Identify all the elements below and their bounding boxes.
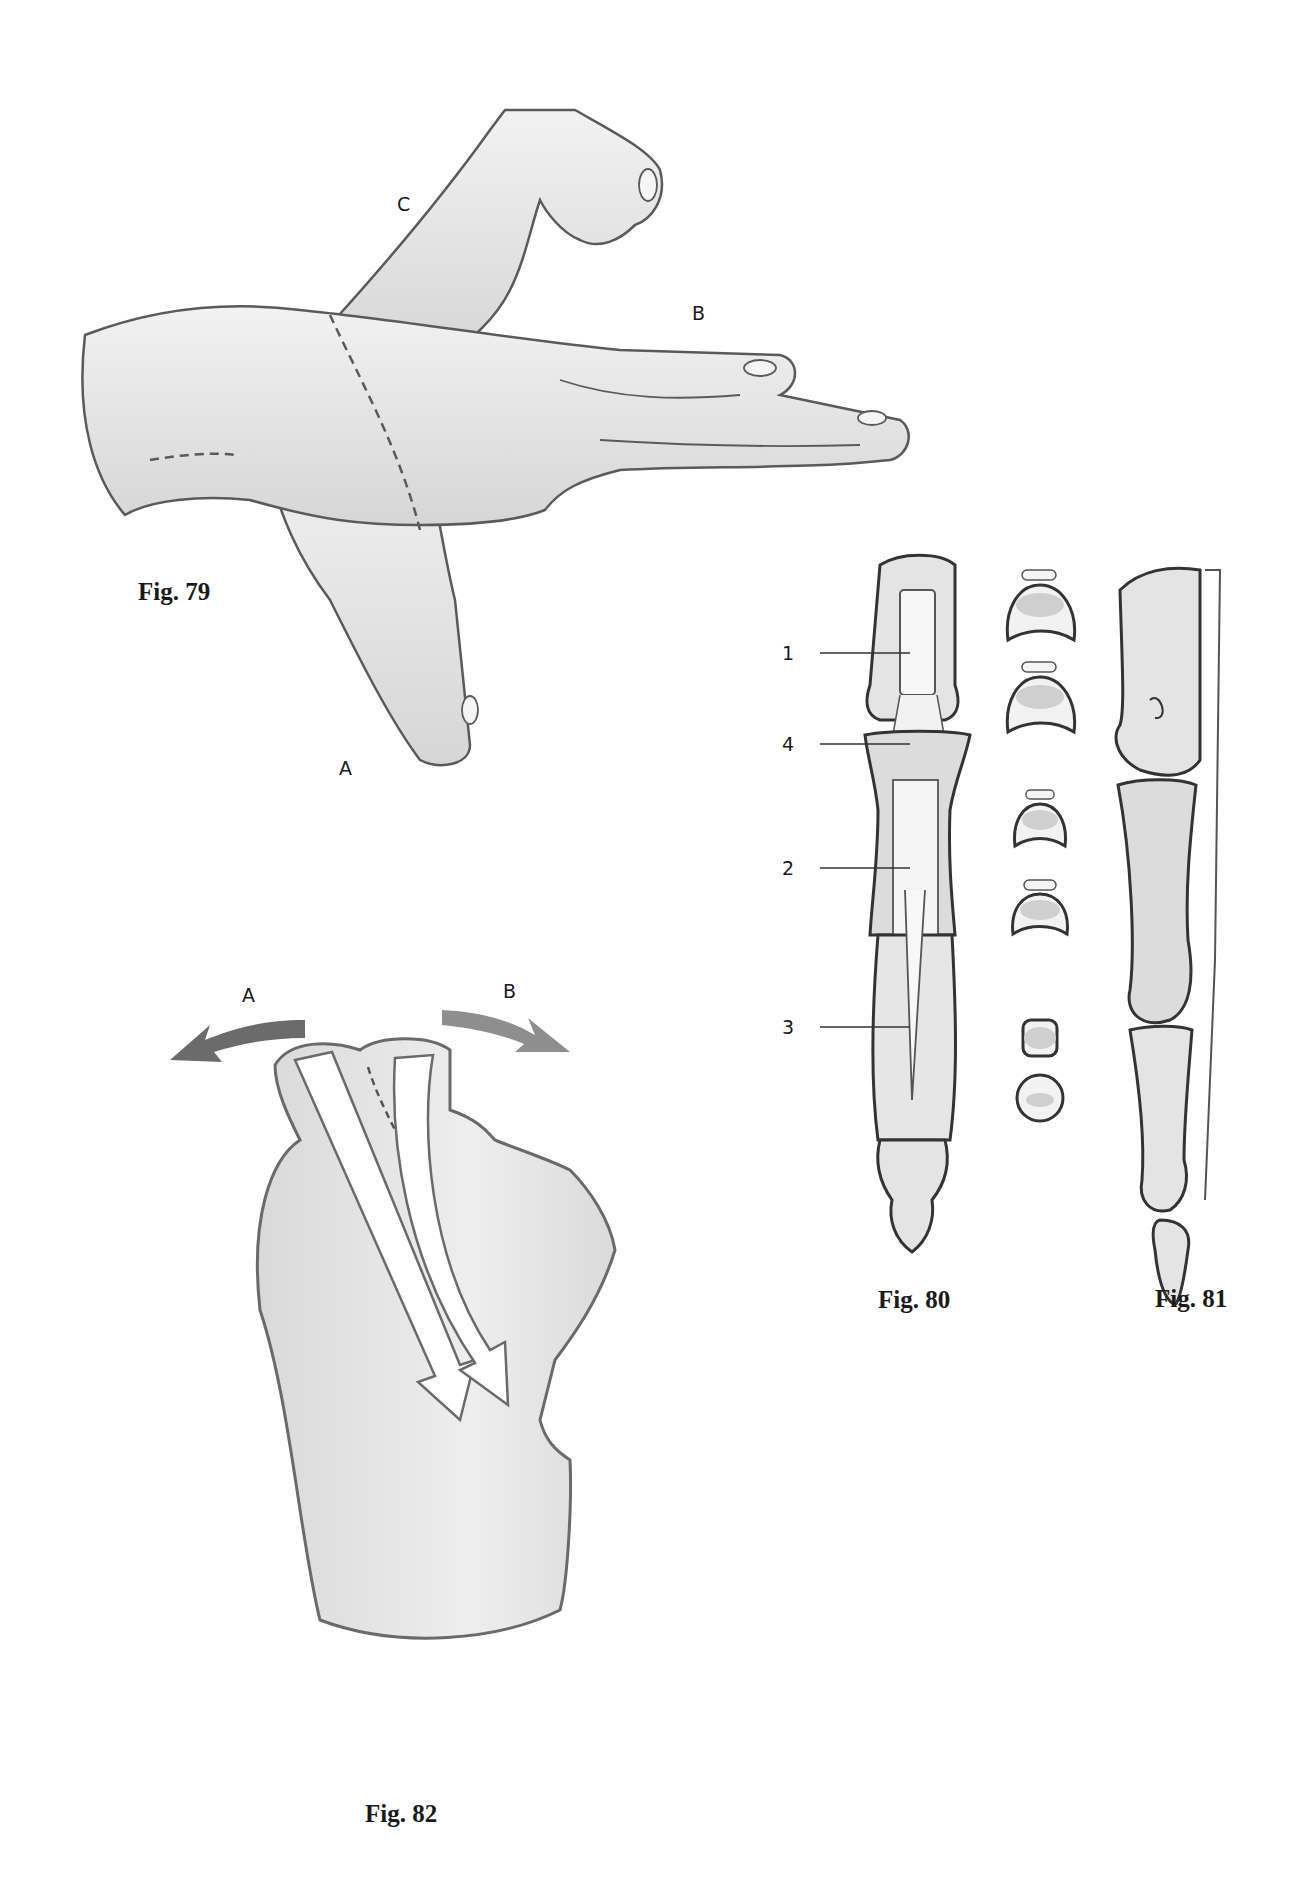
figure-81-caption: Fig. 81 — [1155, 1285, 1227, 1313]
label-b: B — [692, 302, 705, 324]
arrow-label-b: B — [503, 980, 516, 1002]
figure-81: Fig. 81 — [1100, 560, 1300, 1320]
label-a: A — [339, 757, 352, 779]
callout-4: 4 — [782, 733, 794, 755]
figure-82: A B Fig. 82 — [150, 980, 650, 1870]
arrow-label-a: A — [242, 984, 255, 1006]
figure-80: 1 4 2 3 Fig. 80 — [760, 540, 1090, 1300]
cross-sections — [1007, 570, 1074, 1121]
callout-3: 3 — [782, 1016, 794, 1038]
callout-2: 2 — [782, 857, 794, 879]
label-c: C — [397, 193, 410, 215]
figure-82-caption: Fig. 82 — [365, 1800, 437, 1828]
callout-1: 1 — [782, 642, 794, 664]
fist-rotation-illustration — [150, 980, 650, 1870]
finger-lateral-illustration — [1100, 560, 1300, 1320]
figure-79-caption: Fig. 79 — [138, 578, 210, 606]
figure-80-caption: Fig. 80 — [878, 1286, 950, 1314]
finger-dorsal-illustration — [760, 540, 1090, 1300]
